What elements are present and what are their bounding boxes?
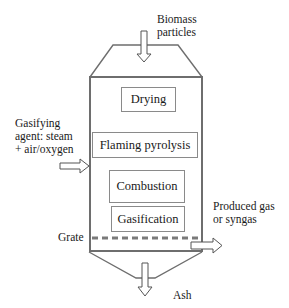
gasifier-diagram: Biomass particles Gasifying agent: steam… (0, 0, 289, 308)
produced-gas-line1: Produced gas (213, 200, 275, 213)
produced-gas-label: Produced gas or syngas (213, 200, 275, 226)
biomass-label-line1: Biomass (157, 13, 197, 26)
zone-gasification: Gasification (111, 206, 185, 232)
zone-drying: Drying (121, 87, 176, 112)
gasifying-agent-label: Gasifying agent: steam + air/oxygen (15, 117, 74, 156)
biomass-arrow-icon (137, 31, 151, 62)
gasifying-agent-line3: + air/oxygen (15, 143, 74, 156)
ash-label: Ash (173, 289, 192, 302)
biomass-label-line2: particles (157, 26, 197, 39)
ash-arrow-icon (138, 263, 152, 296)
gasifying-agent-line1: Gasifying (15, 117, 74, 130)
zone-combustion: Combustion (109, 170, 185, 203)
produced-gas-line2: or syngas (213, 213, 275, 226)
gasifying-agent-arrow-icon (60, 159, 89, 173)
grate-label: Grate (58, 231, 84, 244)
zone-flaming-pyrolysis: Flaming pyrolysis (92, 132, 198, 158)
gasifying-agent-line2: agent: steam (15, 130, 74, 143)
biomass-label: Biomass particles (157, 13, 197, 39)
